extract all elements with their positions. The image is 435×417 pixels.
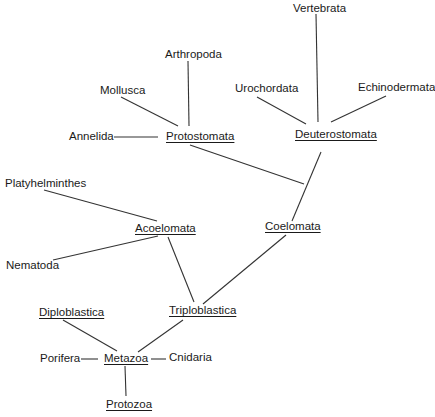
edge-protostomata-coelomata bbox=[190, 145, 304, 184]
node-protozoa: Protozoa bbox=[106, 398, 152, 411]
node-triploblastica: Triploblastica bbox=[169, 304, 236, 317]
node-annelida: Annelida bbox=[69, 130, 114, 143]
edge-metazoa-diploblastica bbox=[63, 320, 117, 351]
node-nematoda: Nematoda bbox=[6, 259, 59, 272]
node-cnidaria: Cnidaria bbox=[169, 351, 212, 364]
edge-acoelomata-platyhelminthes bbox=[44, 190, 157, 221]
node-porifera: Porifera bbox=[40, 352, 80, 365]
node-vertebrata: Vertebrata bbox=[293, 2, 346, 15]
node-arthropoda: Arthropoda bbox=[165, 48, 222, 61]
edge-deuterostomata-coelomata bbox=[292, 152, 321, 221]
edge-triploblastica-coelomata bbox=[203, 235, 286, 304]
node-protostomata: Protostomata bbox=[166, 130, 234, 143]
phylogenetic-tree-diagram: Vertebrata Arthropoda Mollusca Urochorda… bbox=[0, 0, 435, 417]
edge-metazoa-protozoa bbox=[125, 366, 126, 396]
node-mollusca: Mollusca bbox=[100, 84, 145, 97]
node-coelomata: Coelomata bbox=[265, 220, 321, 233]
edge-acoelomata-nematoda bbox=[53, 236, 158, 260]
edge-metazoa-triploblastica bbox=[138, 320, 183, 352]
node-platyhelminthes: Platyhelminthes bbox=[5, 177, 86, 190]
edge-protostomata-arthropoda bbox=[188, 61, 189, 126]
node-urochordata: Urochordata bbox=[235, 82, 298, 95]
node-acoelomata: Acoelomata bbox=[135, 222, 196, 235]
node-deuterostomata: Deuterostomata bbox=[295, 128, 377, 141]
edge-deuterostomata-urochordata bbox=[257, 97, 306, 124]
edge-deuterostomata-echinodermata bbox=[331, 96, 386, 122]
node-metazoa: Metazoa bbox=[104, 352, 148, 365]
node-diploblastica: Diploblastica bbox=[39, 306, 104, 319]
edge-deuterostomata-vertebrata bbox=[316, 14, 318, 122]
edge-triploblastica-acoelomata bbox=[168, 237, 194, 302]
edge-protostomata-mollusca bbox=[121, 97, 178, 126]
node-echinodermata: Echinodermata bbox=[358, 81, 435, 94]
